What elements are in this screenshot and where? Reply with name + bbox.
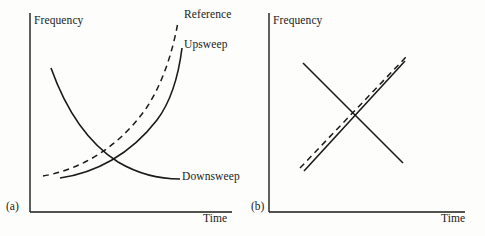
panel-a-y-axis-label: Frequency [34,14,83,26]
panel-b-plot [245,0,485,236]
panel-a-reference-label: Reference [184,8,232,20]
panel-b: Frequency Time (b) [245,0,485,236]
panel-a-upsweep-curve [60,48,182,178]
panel-a: Frequency Time Reference Upsweep Downswe… [0,0,245,236]
panel-b-x-axis-label: Time [441,212,465,224]
panel-a-downsweep-curve [51,68,180,179]
panel-b-y-axis-label: Frequency [273,14,322,26]
panel-a-x-axis-label: Time [203,212,227,224]
panel-a-tag: (a) [6,200,19,212]
panel-b-tag: (b) [251,200,264,212]
figure-container: Frequency Time Reference Upsweep Downswe… [0,0,485,236]
panel-b-downsweep-line [303,63,403,163]
panel-b-upsweep-line [304,61,405,171]
panel-a-upsweep-label: Upsweep [184,38,228,50]
panel-a-downsweep-label: Downsweep [182,170,240,182]
panel-a-plot [0,0,245,236]
panel-a-reference-curve [43,22,178,176]
